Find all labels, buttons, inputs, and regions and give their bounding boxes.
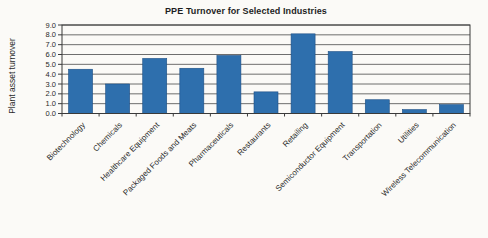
y-tick-label: 8.0 — [46, 30, 56, 39]
bar-chart: 0.01.02.03.04.05.06.07.08.09.0Biotechnol… — [0, 0, 488, 238]
y-tick-label: 9.0 — [46, 21, 56, 30]
y-tick-label: 5.0 — [46, 60, 56, 69]
x-category-label: Utilities — [396, 121, 421, 146]
bar-wireless-telecommunication — [439, 105, 463, 114]
bar-chemicals — [106, 84, 130, 114]
x-category-label: Wireless Telecommunication — [380, 121, 458, 199]
bar-retailing — [291, 34, 315, 114]
bar-biotechnology — [69, 69, 93, 113]
x-category-label: Semiconductor Equipment — [274, 120, 347, 193]
x-category-label: Retailing — [281, 121, 309, 149]
bar-pharmaceuticals — [217, 55, 241, 113]
y-tick-label: 7.0 — [46, 40, 56, 49]
x-category-label: Chemicals — [91, 121, 124, 154]
y-tick-label: 1.0 — [46, 99, 56, 108]
bar-healthcare-equipment — [143, 58, 167, 113]
bar-transportation — [365, 100, 389, 114]
scanned-chart-page: PPE Turnover for Selected Industries Pla… — [0, 0, 488, 238]
bar-packaged-foods-and-meats — [180, 68, 204, 113]
y-tick-label: 6.0 — [46, 50, 56, 59]
bar-semiconductor-equipment — [328, 52, 352, 114]
bar-utilities — [402, 110, 426, 114]
x-category-label: Biotechnology — [45, 121, 87, 163]
x-category-label: Transportation — [341, 121, 384, 164]
y-tick-label: 3.0 — [46, 80, 56, 89]
x-category-label: Restaurants — [236, 121, 273, 158]
bar-restaurants — [254, 92, 278, 114]
x-category-label: Packaged Foods and Meats — [121, 121, 198, 198]
y-tick-label: 4.0 — [46, 70, 56, 79]
y-tick-label: 2.0 — [46, 89, 56, 98]
y-tick-label: 0.0 — [46, 109, 56, 118]
